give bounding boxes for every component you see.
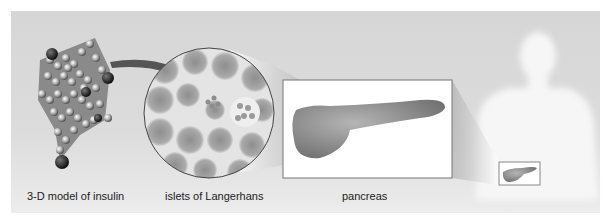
insulin-molecule — [38, 38, 114, 169]
label-islets: islets of Langerhans — [165, 190, 263, 202]
illustration — [0, 0, 612, 221]
label-pancreas: pancreas — [342, 190, 387, 202]
label-insulin: 3-D model of insulin — [27, 190, 124, 202]
